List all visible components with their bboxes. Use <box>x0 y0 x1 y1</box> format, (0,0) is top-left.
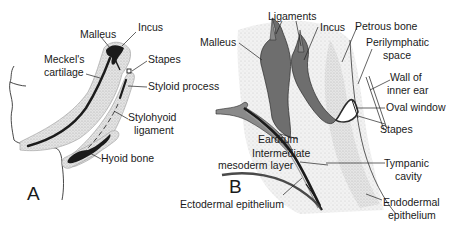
label-a-meckels-cartilage-line1: Meckel's <box>44 54 85 66</box>
label-a-styloid-process: Styloid process <box>148 81 219 93</box>
label-a-incus: Incus <box>138 22 163 34</box>
label-b-malleus: Malleus <box>200 37 236 49</box>
label-b-intermediate-mesoderm-line2: mesoderm layer <box>218 160 293 172</box>
label-b-oval-window: Oval window <box>386 102 446 114</box>
label-b-petrous-bone: Petrous bone <box>355 21 417 33</box>
panel-letter-a: A <box>27 183 40 205</box>
label-b-endodermal-epithelium-line1: Endodermal <box>383 197 440 209</box>
label-a-malleus: Malleus <box>80 29 116 41</box>
label-b-perilymphatic-space-line1: Perilymphatic <box>366 37 429 49</box>
label-b-wall-of-inner-ear-line2: inner ear <box>387 85 428 97</box>
label-a-stapes: Stapes <box>148 54 181 66</box>
label-b-ectodermal-epithelium: Ectodermal epithelium <box>180 199 284 211</box>
label-b-perilymphatic-space-line2: space <box>383 50 411 62</box>
label-b-wall-of-inner-ear-line1: Wall of <box>390 72 422 84</box>
label-b-tympanic-cavity-line2: cavity <box>395 171 422 183</box>
label-b-intermediate-mesoderm-line1: Intermediate <box>252 148 310 160</box>
label-b-stapes: Stapes <box>380 124 413 136</box>
label-b-tympanic-cavity-line1: Tympanic <box>384 158 429 170</box>
embryology-figure: Malleus Incus Meckel's cartilage Stapes … <box>0 0 455 232</box>
label-a-stylohyoid-ligament-line2: ligament <box>134 125 174 137</box>
label-a-stylohyoid-ligament-line1: Stylohyoid <box>128 112 176 124</box>
label-a-meckels-cartilage-line2: cartilage <box>44 67 84 79</box>
label-b-endodermal-epithelium-line2: epithelium <box>388 210 436 222</box>
panel-letter-b: B <box>229 176 242 198</box>
label-b-incus: Incus <box>320 22 345 34</box>
label-b-eardrum: Eardrum <box>258 134 298 146</box>
label-b-ligaments: Ligaments <box>268 11 316 23</box>
label-a-hyoid-bone: Hyoid bone <box>101 153 154 165</box>
